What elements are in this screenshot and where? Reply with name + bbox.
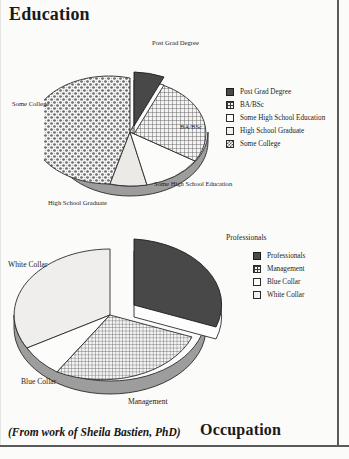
legend-swatch-grid-icon: [226, 101, 234, 109]
label-high-school-graduate: High School Graduate: [48, 200, 107, 207]
page-title-occupation: Occupation: [200, 421, 281, 439]
credit-line: (From work of Sheila Bastien, PhD): [8, 426, 181, 438]
legend-label: BA/BSc: [240, 101, 264, 109]
legend-item-some-high-school-education[interactable]: Some High School Education: [226, 111, 325, 124]
legend-label: High School Graduate: [240, 127, 304, 135]
page-border-right: [337, 0, 339, 446]
legend-label: Some High School Education: [240, 114, 325, 122]
education-legend: Post Grad Degree BA/BSc Some High School…: [226, 85, 325, 150]
legend-swatch-plain-icon: [253, 278, 261, 286]
legend-item-professionals[interactable]: Professionals: [253, 249, 305, 262]
legend-label: Post Grad Degree: [240, 88, 291, 96]
label-post-grad-degree: Post Grad Degree: [152, 40, 199, 47]
legend-item-post-grad-degree[interactable]: Post Grad Degree: [226, 85, 325, 98]
page-title-education: Education: [9, 4, 90, 25]
page-border-left: [0, 0, 1, 446]
legend-swatch-plain-icon: [226, 114, 234, 122]
education-pie-chart: [44, 44, 234, 214]
page-border-bottom: [0, 445, 349, 447]
label-ba-bsc: BA/BSc: [180, 124, 202, 131]
label-management: Management: [128, 398, 168, 406]
legend-item-ba-bsc[interactable]: BA/BSc: [226, 98, 325, 111]
legend-item-high-school-graduate[interactable]: High School Graduate: [226, 124, 325, 137]
label-blue-collar: Blue Collar: [21, 378, 56, 386]
legend-label: White Collar: [267, 291, 304, 299]
legend-swatch-solid-icon: [253, 252, 261, 260]
legend-item-some-college[interactable]: Some College: [226, 137, 325, 150]
legend-label: Some College: [240, 140, 281, 148]
legend-swatch-grid-icon: [253, 265, 261, 273]
legend-swatch-dots-icon: [226, 140, 234, 148]
legend-item-white-collar[interactable]: White Collar: [253, 288, 305, 301]
legend-item-blue-collar[interactable]: Blue Collar: [253, 275, 305, 288]
page-canvas: Education Occupation (From work of Sheil…: [0, 0, 349, 459]
legend-label: Management: [267, 265, 305, 273]
education-pie-svg: [44, 44, 234, 214]
label-professionals: Professionals: [226, 234, 267, 242]
label-some-college: Some College: [12, 101, 49, 108]
occupation-slice-professionals-group: [134, 239, 222, 339]
occupation-legend: Professionals Management Blue Collar Whi…: [253, 249, 305, 301]
legend-swatch-light-icon: [253, 291, 261, 299]
legend-label: Professionals: [267, 252, 305, 260]
legend-swatch-light-icon: [226, 127, 234, 135]
legend-label: Blue Collar: [267, 278, 300, 286]
label-some-high-school-education: Some High School Education: [154, 181, 232, 188]
legend-item-management[interactable]: Management: [253, 262, 305, 275]
label-white-collar: White Collar: [8, 261, 47, 269]
legend-swatch-solid-icon: [226, 88, 234, 96]
